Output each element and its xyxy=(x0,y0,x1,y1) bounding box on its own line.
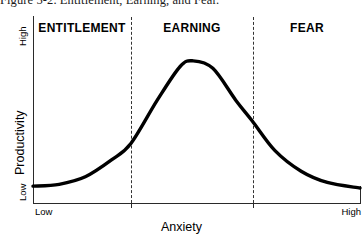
productivity-anxiety-chart: High Low Productivity Low High Anxiety E… xyxy=(0,0,363,237)
productivity-curve-path xyxy=(33,61,360,188)
productivity-curve xyxy=(0,0,363,237)
